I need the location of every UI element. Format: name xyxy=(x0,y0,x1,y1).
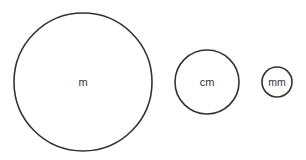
centimeter-label: cm xyxy=(200,76,215,88)
meter-label: m xyxy=(78,76,87,88)
units-diagram: m cm mm xyxy=(0,0,306,160)
millimeter-label: mm xyxy=(268,76,286,88)
unit-millimeter: mm xyxy=(262,67,292,97)
unit-centimeter: cm xyxy=(175,50,239,114)
unit-meter: m xyxy=(14,13,152,151)
